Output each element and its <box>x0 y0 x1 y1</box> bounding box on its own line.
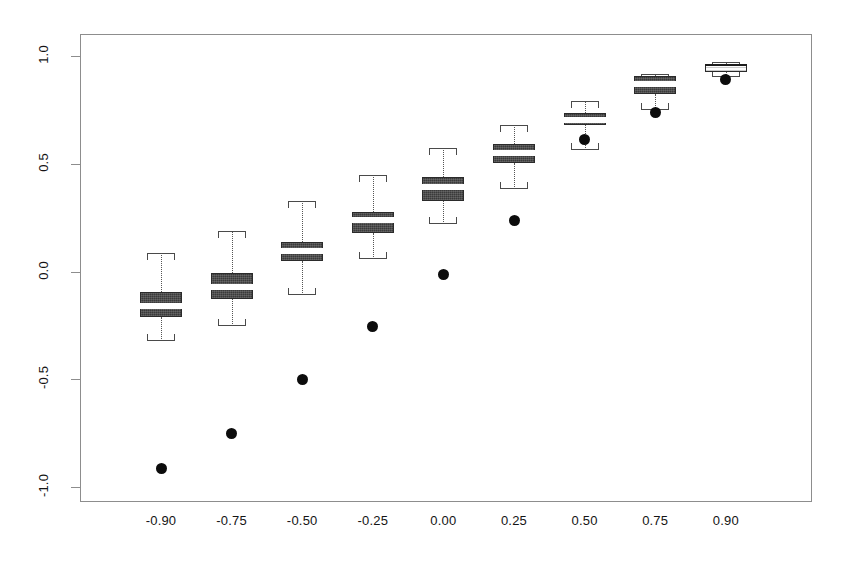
boxplot-group[interactable] <box>0 0 857 563</box>
x-tick-label: 0.50 <box>545 513 625 528</box>
median-line <box>705 64 747 66</box>
x-tick-label: -0.50 <box>262 513 342 528</box>
y-tick-mark <box>71 272 80 273</box>
y-tick-label: -1.0 <box>36 463 51 509</box>
y-tick-mark <box>71 379 80 380</box>
y-tick-mark <box>71 56 80 57</box>
reference-point-marker[interactable] <box>720 74 731 85</box>
y-tick-label: 0.5 <box>36 139 51 185</box>
x-tick-label: 0.00 <box>403 513 483 528</box>
y-tick-mark <box>71 487 80 488</box>
x-tick-label: -0.75 <box>192 513 272 528</box>
plot-area <box>0 0 857 563</box>
x-tick-label: 0.75 <box>615 513 695 528</box>
x-tick-label: 0.90 <box>686 513 766 528</box>
x-tick-label: 0.25 <box>474 513 554 528</box>
x-tick-label: -0.25 <box>333 513 413 528</box>
y-tick-label: -0.5 <box>36 355 51 401</box>
y-tick-label: 1.0 <box>36 32 51 78</box>
y-tick-mark <box>71 164 80 165</box>
boxplot-figure: -1.0-0.50.00.51.0 -0.90-0.75-0.50-0.250.… <box>0 0 857 563</box>
x-tick-label: -0.90 <box>121 513 201 528</box>
y-tick-label: 0.0 <box>36 247 51 293</box>
